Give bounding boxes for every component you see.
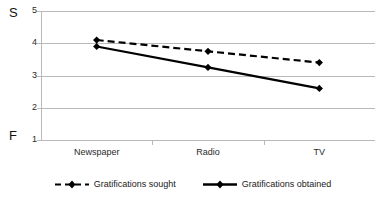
gridline (41, 108, 375, 109)
legend-swatch-solid-diamond-icon (202, 179, 238, 190)
scale-label-top: S (9, 6, 18, 19)
gridline (41, 76, 375, 77)
gridline (41, 11, 375, 12)
legend-swatch-dashed-diamond-icon (54, 179, 90, 190)
y-tickmark (37, 43, 41, 44)
x-tickmark (152, 141, 153, 145)
legend-item-sought: Gratifications sought (54, 179, 176, 190)
y-tickmark (37, 76, 41, 77)
x-tick-label: Newspaper (74, 148, 120, 157)
y-tick-label: 4 (22, 38, 37, 47)
y-tickmark (37, 140, 41, 141)
chart-legend: Gratifications sought Gratifications obt… (0, 174, 385, 194)
y-axis-tick-labels: 12345 (22, 0, 37, 202)
x-tickmark (264, 141, 265, 145)
line-chart: S F 12345 NewspaperRadioTV Gratification… (0, 0, 385, 202)
gridline (41, 140, 375, 141)
legend-item-obtained: Gratifications obtained (202, 179, 332, 190)
x-tick-label: TV (314, 148, 326, 157)
y-tick-label: 2 (22, 103, 37, 112)
y-tick-label: 3 (22, 71, 37, 80)
y-tickmark (37, 108, 41, 109)
y-tickmark (37, 11, 41, 12)
legend-label-obtained: Gratifications obtained (242, 180, 332, 189)
gridline (41, 43, 375, 44)
plot-area (41, 11, 375, 140)
x-tick-label: Radio (196, 148, 220, 157)
y-tick-label: 5 (22, 6, 37, 15)
y-tick-label: 1 (22, 135, 37, 144)
scale-label-bottom: F (9, 129, 17, 142)
legend-label-sought: Gratifications sought (94, 180, 176, 189)
